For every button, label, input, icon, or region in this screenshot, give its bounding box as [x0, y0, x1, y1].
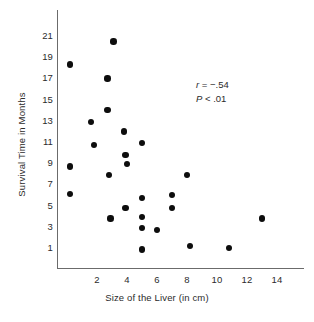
pvalue-annotation: P < .01 [196, 92, 229, 106]
correlation-annotation: r = −.54 [196, 78, 229, 92]
y-tick-label: 17 [27, 72, 53, 83]
x-axis-title: Size of the Liver (in cm) [0, 292, 314, 303]
y-tick-label: 21 [27, 30, 53, 41]
x-tick-label: 12 [236, 274, 258, 285]
y-tick-label: 5 [27, 200, 53, 211]
data-point [104, 107, 110, 113]
x-tick-label: 2 [86, 274, 108, 285]
data-point [122, 205, 128, 211]
data-point [110, 38, 116, 44]
x-axis-line [57, 268, 304, 269]
x-tick-label: 8 [176, 274, 198, 285]
x-tick-label: 14 [266, 274, 288, 285]
data-point [67, 163, 73, 169]
scatter-plot-figure: 13579111315171921 2468101214 r = −.54 P … [0, 0, 314, 322]
y-tick-label: 11 [27, 136, 53, 147]
y-tick-label: 19 [27, 51, 53, 62]
data-point [169, 205, 175, 211]
plot-data-area [57, 10, 305, 268]
y-tick-label: 7 [27, 178, 53, 189]
x-tick-label: 4 [116, 274, 138, 285]
y-tick-label: 9 [27, 157, 53, 168]
y-tick-label: 15 [27, 94, 53, 105]
data-point [259, 215, 265, 221]
statistics-annotation: r = −.54 P < .01 [196, 78, 229, 106]
y-tick-label: 3 [27, 221, 53, 232]
data-point [122, 152, 128, 158]
data-point [139, 246, 145, 252]
x-axis-tick-labels: 2468101214 [0, 274, 314, 288]
y-tick-label: 13 [27, 115, 53, 126]
data-point [107, 215, 113, 221]
data-point [104, 75, 110, 81]
x-tick-label: 6 [146, 274, 168, 285]
data-point [121, 128, 127, 134]
x-tick-label: 10 [206, 274, 228, 285]
y-axis-title: Survival Time in Months [16, 55, 27, 235]
y-tick-label: 1 [27, 242, 53, 253]
data-point [67, 61, 73, 67]
